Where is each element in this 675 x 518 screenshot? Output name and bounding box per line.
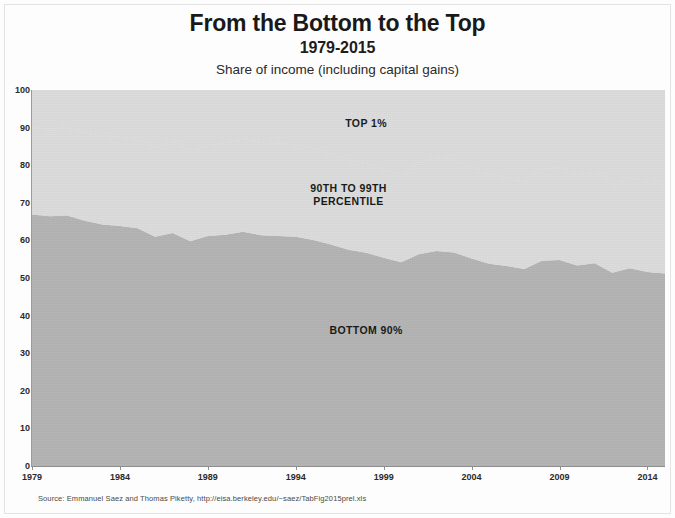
area-chart-svg (32, 90, 665, 466)
y-tick-label: 90 (4, 123, 30, 133)
y-tick-label: 50 (4, 273, 30, 283)
x-axis-line (32, 466, 665, 467)
y-tick-label: 10 (4, 423, 30, 433)
chart-page: From the Bottom to the Top 1979-2015 Sha… (0, 0, 675, 518)
x-tick-label: 1984 (110, 472, 130, 482)
x-tick-label: 2014 (637, 472, 657, 482)
x-tick-label: 1999 (374, 472, 394, 482)
band-label: 90TH TO 99TH PERCENTILE (310, 182, 386, 208)
x-tick-label: 1994 (286, 472, 306, 482)
y-tick-label: 60 (4, 235, 30, 245)
x-tick-mark (472, 466, 473, 470)
x-tick-label: 2009 (549, 472, 569, 482)
y-axis-line (31, 90, 32, 467)
x-tick-label: 1989 (198, 472, 218, 482)
y-axis: 0102030405060708090100 (0, 90, 30, 466)
y-tick-label: 20 (4, 386, 30, 396)
x-tick-mark (647, 466, 648, 470)
x-tick-label: 1979 (22, 472, 42, 482)
y-tick-label: 40 (4, 311, 30, 321)
y-tick-label: 0 (4, 461, 30, 471)
y-tick-label: 80 (4, 160, 30, 170)
band-label: TOP 1% (345, 117, 387, 130)
y-tick-label: 70 (4, 198, 30, 208)
x-tick-mark (560, 466, 561, 470)
source-note: Source: Emmanuel Saez and Thomas Piketty… (38, 494, 366, 503)
x-tick-label: 2004 (462, 472, 482, 482)
x-tick-mark (120, 466, 121, 470)
y-tick-label: 30 (4, 348, 30, 358)
x-tick-mark (384, 466, 385, 470)
x-tick-mark (296, 466, 297, 470)
y-tick-label: 100 (4, 85, 30, 95)
band-label: BOTTOM 90% (329, 324, 402, 337)
x-tick-mark (208, 466, 209, 470)
plot-wrapper: 0102030405060708090100 19791984198919941… (0, 0, 675, 518)
x-tick-mark (32, 466, 33, 470)
plot-area (32, 90, 665, 466)
